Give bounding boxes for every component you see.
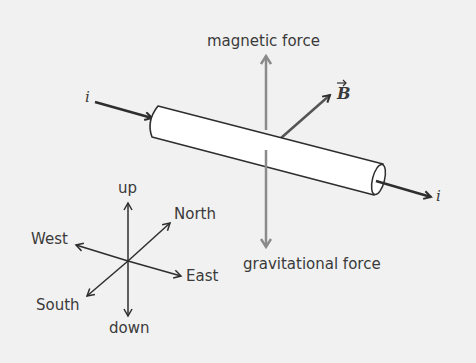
compass-south-arrow — [87, 261, 128, 296]
magnetic-force-label: magnetic force — [207, 34, 320, 49]
field-label: B — [337, 86, 351, 102]
compass-west-label: West — [31, 232, 68, 247]
physics-diagram: magnetic force B i i gravitational force… — [0, 0, 476, 363]
compass-north-arrow — [128, 223, 170, 261]
compass-south-label: South — [36, 298, 80, 313]
compass-axes — [76, 203, 181, 316]
compass-down-label: down — [109, 321, 149, 336]
compass-west-arrow — [76, 245, 128, 261]
current-out-label: i — [436, 189, 441, 204]
gravitational-force-label: gravitational force — [243, 257, 381, 272]
current-out-arrow — [376, 181, 431, 197]
compass-up-label: up — [118, 181, 137, 196]
current-in-arrow — [95, 102, 152, 118]
compass-north-label: North — [174, 207, 216, 222]
magnetic-field-arrow — [281, 95, 330, 138]
rod — [150, 106, 388, 196]
current-in-label: i — [85, 90, 90, 105]
compass-east-arrow — [128, 261, 181, 276]
compass-east-label: East — [186, 269, 218, 284]
